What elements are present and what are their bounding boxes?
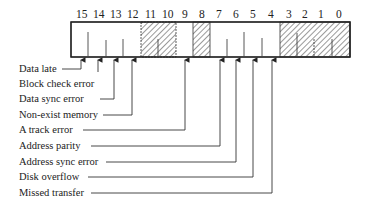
connector-bit-6	[106, 60, 236, 162]
label-non-exist-memory: Non-exist memory	[19, 109, 99, 120]
bit-number-1: 1	[318, 8, 324, 20]
bit-number-4: 4	[268, 8, 274, 20]
bit-number-11: 11	[145, 8, 156, 20]
bit-number-13: 13	[110, 8, 122, 20]
label-data-sync-error: Data sync error	[19, 93, 84, 104]
connector-bit-15	[62, 60, 81, 69]
connector-bit-5	[88, 60, 253, 177]
bit-number-row: 15 14 13 12 11 10 9 8 7 6 5 4 3 2 1 0	[76, 8, 342, 20]
label-block-check-error: Block check error	[19, 78, 95, 89]
bit-number-0: 0	[336, 8, 342, 20]
label-missed-transfer: Missed transfer	[19, 187, 85, 198]
connector-bit-13	[100, 60, 114, 99]
unused-bits-11-10	[141, 22, 176, 57]
bit-number-12: 12	[127, 8, 139, 20]
bit-number-6: 6	[233, 8, 239, 20]
bit-number-15: 15	[76, 8, 88, 20]
register-bit-diagram: 15 14 13 12 11 10 9 8 7 6 5 4 3 2 1 0	[0, 0, 366, 209]
bit-number-9: 9	[182, 8, 188, 20]
bit-number-3: 3	[286, 8, 292, 20]
field-labels: Data late Block check error Data sync er…	[19, 63, 99, 198]
unused-bits-3-0	[280, 22, 350, 57]
bit-number-5: 5	[250, 8, 256, 20]
unused-bit-8	[193, 22, 210, 57]
bit-number-14: 14	[93, 8, 105, 20]
connector-bit-4	[91, 60, 272, 193]
bit-number-10: 10	[162, 8, 174, 20]
label-address-parity: Address parity	[19, 140, 81, 151]
connector-bit-12	[103, 60, 132, 115]
bit-number-7: 7	[216, 8, 222, 20]
connector-bit-7	[91, 60, 220, 146]
bit-number-2: 2	[302, 8, 308, 20]
label-address-sync-error: Address sync error	[19, 156, 99, 167]
label-data-late: Data late	[19, 63, 57, 74]
label-disk-overflow: Disk overflow	[19, 171, 80, 182]
bit-number-8: 8	[199, 8, 205, 20]
label-a-track-error: A track error	[19, 124, 73, 135]
